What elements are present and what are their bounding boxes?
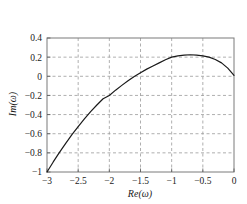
- x-tick-label: −0.5: [194, 176, 211, 186]
- y-tick-label: 0.4: [30, 33, 42, 43]
- y-tick-label: −0.8: [25, 148, 42, 158]
- y-tick-label: −0.4: [25, 110, 42, 120]
- x-tick-label: −3: [42, 176, 52, 186]
- figure-container: −3−2.5−2−1.5−1−0.50 0.40.20−0.2−0.4−0.6−…: [0, 0, 247, 204]
- y-tick-label: −0.2: [25, 91, 42, 101]
- y-tick-label: −0.6: [25, 129, 42, 139]
- y-axis-label: Im(ω): [7, 91, 19, 117]
- x-tick-label: −2: [104, 176, 114, 186]
- y-tick-label: 0: [37, 72, 42, 82]
- y-tick-label: −1: [32, 167, 42, 177]
- x-tick-label: 0: [232, 176, 237, 186]
- x-tick-label: −2.5: [70, 176, 87, 186]
- x-axis-label: Re(ω): [127, 188, 153, 200]
- y-tick-label: 0.2: [30, 53, 42, 63]
- x-tick-label: −1.5: [132, 176, 149, 186]
- x-tick-label: −1: [167, 176, 177, 186]
- x-tick-labels: −3−2.5−2−1.5−1−0.50: [42, 176, 237, 186]
- nyquist-plot: −3−2.5−2−1.5−1−0.50 0.40.20−0.2−0.4−0.6−…: [0, 0, 247, 204]
